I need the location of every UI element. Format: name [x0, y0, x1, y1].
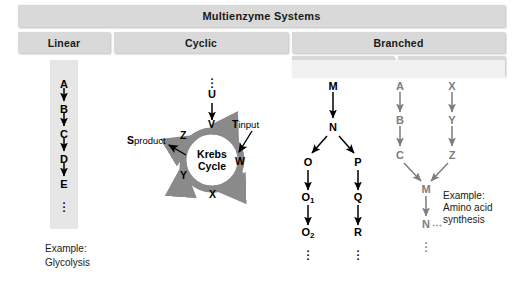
cyclic-node-z: Z [180, 129, 186, 141]
column-header-branched: Branched [292, 32, 505, 53]
product-marker: S [127, 134, 134, 146]
linear-node-d: D [59, 154, 69, 165]
divergent-node-o1-letter: O [301, 191, 310, 203]
divergent-node-r: R [353, 227, 363, 238]
convergent-node-b: B [395, 115, 405, 126]
divergent-node-o2-letter: O [301, 226, 310, 238]
divergent-node-o-letter: O [304, 156, 313, 168]
divergent-node-q: Q [353, 192, 363, 203]
convergent-node-x: X [447, 81, 457, 92]
cyclic-product-label: Sproduct [127, 134, 166, 146]
convergent-example-line3: synthesis [443, 214, 485, 226]
linear-node-e: E [59, 179, 69, 190]
convergent-node-z: Z [447, 150, 457, 161]
cyclic-input-ellipsis: ... [207, 74, 217, 86]
linear-node-b: B [59, 104, 69, 115]
diagram-canvas: Multienzyme Systems Linear Cyclic Branch… [0, 0, 521, 285]
divergent-node-o: O [302, 157, 314, 168]
product-text: product [134, 135, 166, 146]
column-header-linear: Linear [18, 32, 110, 53]
krebs-title-line1: Krebs [188, 148, 236, 160]
divergent-right-ellipsis: ... [353, 246, 363, 258]
column-header-cyclic: Cyclic [114, 32, 288, 53]
divergent-arrows [308, 92, 358, 225]
divergent-node-o2: O2 [300, 227, 316, 239]
convergent-ellipsis: ... [421, 238, 431, 250]
convergent-node-m: M [421, 184, 431, 195]
cyclic-node-v: V [208, 118, 215, 130]
cyclic-node-w: W [235, 155, 245, 167]
header-title-bar: Multienzyme Systems [18, 5, 505, 27]
linear-node-c: C [59, 129, 69, 140]
convergent-example-line2: Amino acid [443, 202, 492, 214]
convergent-node-n: N [421, 219, 431, 230]
convergent-node-y: Y [447, 115, 457, 126]
divergent-node-m: M [328, 81, 338, 92]
divergent-node-n: N [328, 122, 338, 133]
linear-node-a: A [59, 79, 69, 90]
input-arrow [239, 131, 252, 152]
cyclic-node-x: X [209, 188, 216, 200]
linear-ellipsis: ... [59, 198, 69, 210]
convergent-example-line1: Example: [443, 190, 485, 202]
linear-example-line1: Example: [45, 243, 87, 255]
cyclic-node-u: U [207, 89, 217, 100]
divergent-node-p: P [353, 157, 363, 168]
product-arrow [169, 145, 186, 155]
linear-example-line2: Glycolysis [45, 257, 90, 269]
divergent-node-o1-sub: 1 [310, 196, 314, 205]
cyclic-input-label: Tinput [232, 118, 259, 130]
input-text: input [238, 119, 259, 130]
divergent-node-o2-sub: 2 [310, 231, 314, 240]
krebs-title-line2: Cycle [188, 160, 236, 172]
convergent-node-c: C [395, 150, 405, 161]
branched-column-band [292, 60, 505, 78]
convergent-node-a: A [395, 81, 405, 92]
cyclic-node-y: Y [180, 169, 187, 181]
divergent-left-ellipsis: ... [303, 246, 313, 258]
divergent-node-o1: O1 [300, 192, 316, 204]
